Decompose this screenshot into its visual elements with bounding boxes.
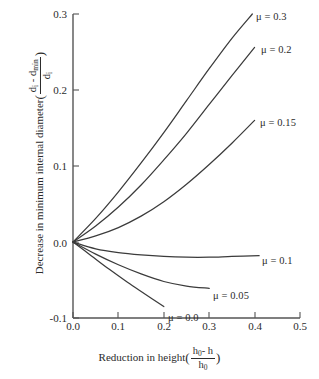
series-label-mu-0-3: μ = 0.3	[256, 11, 287, 22]
x-axis-title-text: Reduction in height	[99, 351, 186, 363]
y-frac-di: d	[27, 87, 38, 92]
curve-mu-0-1	[73, 242, 259, 257]
x-tick-label-1: 0.1	[98, 320, 138, 332]
y-frac-dmin-sub: min	[31, 59, 40, 71]
y-frac-dash: -	[27, 79, 38, 83]
curve-mu-0-05	[73, 242, 209, 288]
series-label-mu-0-1: μ = 0.1	[262, 255, 293, 266]
x-tick-label-0: 0.0	[53, 320, 93, 332]
y-frac-dmin: d	[27, 71, 38, 76]
series-label-mu-0-2: μ = 0.2	[261, 44, 292, 55]
y-axis-title-text: Decrease in minimum internal diameter	[33, 100, 45, 275]
x-frac-num-tail: - h	[202, 345, 213, 356]
series-label-mu-0-0: μ = 0.0	[168, 312, 199, 323]
x-open-paren: (	[185, 350, 189, 365]
y-open-paren: (	[32, 95, 47, 99]
x-frac-den-sub: 0	[204, 362, 208, 371]
x-tick-label-4: 0.4	[235, 320, 275, 332]
chart-figure: 0.3 0.2 0.1 0.0 -0.1 0.0 0.1 0.2 0.3 0.4…	[0, 0, 319, 379]
y-frac-den-sub: i	[44, 72, 53, 74]
curve-mu-0-3	[73, 14, 252, 242]
y-frac-di-sub: i	[31, 85, 40, 87]
curve-mu-0-0	[73, 242, 164, 307]
curve-mu-0-15	[73, 120, 255, 242]
series-label-mu-0-05: μ = 0.05	[213, 290, 249, 301]
y-frac-den-d: d	[41, 74, 52, 79]
y-axis-title: Decrease in minimum internal diameter(di…	[27, 3, 53, 323]
x-axis-fraction: h0- hh0	[191, 345, 215, 371]
series-label-mu-0-15: μ = 0.15	[260, 117, 296, 128]
x-axis-title: Reduction in height(h0- hh0)	[0, 345, 319, 371]
y-close-paren: )	[32, 52, 47, 56]
x-close-paren: )	[216, 350, 220, 365]
x-tick-label-5: 0.5	[280, 320, 319, 332]
y-axis-ticks	[73, 14, 79, 318]
y-axis-fraction: di - dmindi	[27, 57, 53, 94]
